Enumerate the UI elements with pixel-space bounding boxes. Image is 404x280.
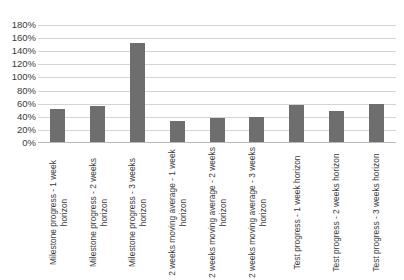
y-axis-tick-label: 80% (0, 86, 36, 96)
bar-slot (197, 25, 237, 143)
y-axis-tick-label: 120% (0, 60, 36, 70)
bar[interactable] (170, 121, 185, 143)
y-axis-tick-label: 100% (0, 73, 36, 83)
bar-slot (78, 25, 118, 143)
y-axis-tick-label: 180% (0, 20, 36, 30)
x-axis-category-slot: Milestone progress - 2 weeks horizon (78, 147, 118, 280)
x-axis-category-label: Test progress - 3 weeks horizon (371, 147, 382, 278)
x-axis-category-slot: Test progress - 3 weeks horizon (356, 147, 396, 280)
bar-slot (38, 25, 78, 143)
x-axis-category-label: 2 weeks moving average - 3 weeks horizon (246, 147, 267, 278)
bars-layer (38, 25, 396, 143)
x-axis-category-label: Test progress - 2 weeks horizon (331, 147, 342, 278)
bar-slot (356, 25, 396, 143)
bar-chart: 180%160%140%120%100%80%60%40%20%0% Miles… (0, 0, 404, 280)
axis-baseline (38, 142, 396, 143)
bar[interactable] (289, 105, 304, 143)
bar[interactable] (130, 43, 145, 143)
plot-area (38, 25, 396, 143)
x-axis-category-label: 2 weeks moving average - 1 week horizon (167, 147, 188, 278)
x-axis-category-slot: 2 weeks moving average - 1 week horizon (157, 147, 197, 280)
y-axis-tick-label: 40% (0, 112, 36, 122)
y-axis-tick-label: 140% (0, 46, 36, 56)
y-axis-tick-label: 20% (0, 125, 36, 135)
bar[interactable] (249, 117, 264, 143)
x-axis-category-slot: 2 weeks moving average - 2 weeks horizon (197, 147, 237, 280)
bar-slot (157, 25, 197, 143)
bar[interactable] (369, 104, 384, 143)
bar[interactable] (329, 111, 344, 143)
bar[interactable] (90, 106, 105, 143)
x-axis-category-slot: Milestone progress - 3 weeks horizon (118, 147, 158, 280)
y-axis-tick-label: 0% (0, 138, 36, 148)
y-axis: 180%160%140%120%100%80%60%40%20%0% (0, 0, 36, 150)
x-axis-category-slot: 2 weeks moving average - 3 weeks horizon (237, 147, 277, 280)
x-axis-category-label: Milestone progress - 1 week horizon (47, 147, 68, 278)
y-axis-tick-label: 160% (0, 33, 36, 43)
bar[interactable] (50, 109, 65, 143)
bar-slot (277, 25, 317, 143)
x-axis-category-label: Milestone progress - 2 weeks horizon (87, 147, 108, 278)
bar-slot (316, 25, 356, 143)
x-axis-category-labels: Milestone progress - 1 week horizonMiles… (38, 147, 396, 280)
x-axis-category-label: 2 weeks moving average - 2 weeks horizon (207, 147, 228, 278)
x-axis-category-label: Test progress - 1 week horizon (291, 147, 302, 278)
bar[interactable] (210, 118, 225, 143)
x-axis-category-label: Milestone progress - 3 weeks horizon (127, 147, 148, 278)
x-axis-category-slot: Test progress - 2 weeks horizon (316, 147, 356, 280)
y-axis-tick-label: 60% (0, 99, 36, 109)
x-axis-category-slot: Test progress - 1 week horizon (277, 147, 317, 280)
bar-slot (118, 25, 158, 143)
bar-slot (237, 25, 277, 143)
x-axis-category-slot: Milestone progress - 1 week horizon (38, 147, 78, 280)
